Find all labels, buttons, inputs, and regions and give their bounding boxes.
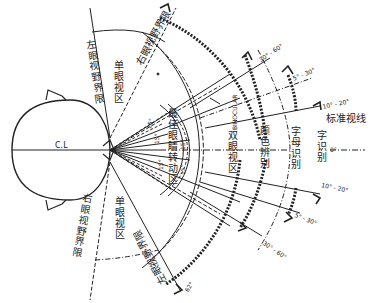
label-binocular-en: BINOCULAR (232, 95, 238, 130)
angle-inner-15-e: 15° (158, 159, 164, 170)
arrowhead-icon (174, 284, 182, 294)
label-monocular-top: 单眼视区 (112, 60, 122, 104)
label-center-line: C.L (55, 142, 68, 150)
label-optimal-eye-rotation: 最佳眼睛转动区 (166, 108, 176, 185)
label-zero-deg: 0° (330, 147, 337, 153)
label-word-recognition-2: 字识别 (315, 130, 325, 163)
ear-bottom-icon (46, 200, 66, 210)
ear-top-icon (46, 90, 66, 100)
arrowhead-icon (313, 194, 320, 204)
label-color-discrimination: 颜色辨别 (258, 125, 268, 169)
arrowhead-icon (313, 102, 321, 110)
arrowhead-icon (284, 212, 292, 222)
arrowhead-icon (282, 66, 293, 74)
angle-inner-15-c: 15° (180, 139, 186, 150)
right-eye-limit-bottom-line (90, 162, 110, 300)
angle-inner-15-d: 15° (180, 164, 186, 175)
label-binocular: 双眼视区 (226, 130, 236, 174)
label-monocular-bottom: 单眼视区 (113, 196, 123, 240)
label-word-recognition: 字母识别 (289, 126, 299, 170)
angle-inner-15-b: 15° (154, 133, 160, 144)
label-standard-sightline: 标准视线 (326, 114, 366, 124)
visual-field-diagram: 左眼视野界限 单眼视区 右眼视野界限 C.L 右眼视野界限 单眼视区 左眼视野界… (0, 0, 376, 303)
